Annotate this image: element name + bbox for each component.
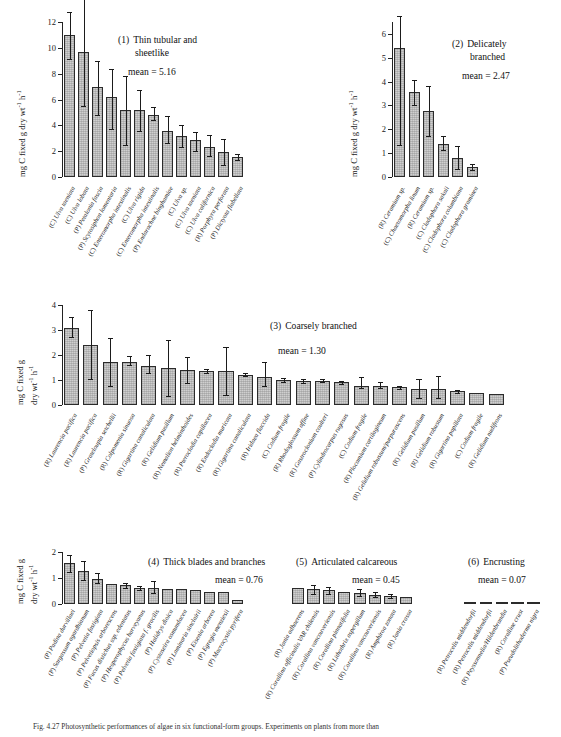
error-bar [154,581,155,593]
panel-title: (2)Delicately [452,38,507,49]
y-axis-tick [58,355,62,356]
species-label: (R) Colpomenia sinuosa [98,412,136,471]
y-axis-title: mg C fixed g dry wt-1 h-1 [14,90,27,177]
error-bar [196,132,197,151]
error-bar-cap [137,90,142,91]
y-axis-tick-label: 6 [34,96,56,105]
error-bar-cap [243,376,248,377]
bar [338,592,350,604]
error-bar-cap [455,146,460,147]
error-bar-cap [301,383,306,384]
y-axis-line [62,22,63,177]
y-axis-tick-label: 2 [34,351,56,360]
error-bar-cap [426,136,431,137]
error-bar-cap [378,382,383,383]
error-bar-cap [95,583,100,584]
panel-number: (2) [452,38,463,49]
error-bar [361,377,362,388]
error-bar-cap [179,125,184,126]
error-bar-cap [193,151,198,152]
error-bar-cap [95,573,100,574]
panel-title-text: Thin tubular and [133,34,197,45]
error-bar-cap [69,317,74,318]
error-bar-cap [108,338,113,339]
y-axis-tick-label: 4 [34,301,56,310]
panel-title-text: Delicately [467,38,506,49]
bar [106,584,117,604]
error-bar [110,338,111,386]
figure-caption: Fig. 4.27 Photosynthetic performances of… [33,722,533,734]
y-axis-tick [388,153,392,154]
bar [400,597,412,604]
error-bar-cap [95,115,100,116]
error-bar-cap [470,164,475,165]
panel-title-text: Coarsely branched [285,320,357,331]
error-bar-cap [235,154,240,155]
error-bar [149,355,150,373]
error-bar [443,136,444,150]
y-axis-tick [388,177,392,178]
panel-number: (6) [468,556,479,567]
error-bar-cap [127,365,132,366]
error-bar-cap [204,369,209,370]
error-bar-cap [235,160,240,161]
error-bar [98,61,99,115]
error-bar-cap [320,382,325,383]
figure-photosynthetic-performance: 024681012mg C fixed g dry wt-1 h-1(1)Thi… [0,0,561,737]
panel-number: (3) [270,320,281,331]
error-bar-cap [412,105,417,106]
panel-title: (4)Thick blades and branches [148,556,265,567]
error-bar-cap [339,381,344,382]
error-bar-cap [67,572,72,573]
y-axis-tick [388,129,392,130]
panel-mean-label: mean = 2.47 [462,70,510,81]
error-bar [400,16,401,145]
y-axis-tick-label: 12 [34,18,56,27]
panel-number: (5) [296,556,307,567]
error-bar [414,80,415,105]
error-bar-cap [185,383,190,384]
error-bar [168,116,169,143]
error-bar-cap [67,59,72,60]
error-bar-cap [193,132,198,133]
error-bar-cap [165,143,170,144]
error-bar [84,561,85,580]
error-bar-cap [441,150,446,151]
error-bar [429,86,430,136]
error-bar-cap [455,390,460,391]
error-bar [168,340,169,397]
bar [511,602,523,604]
bar [480,602,492,604]
error-bar [91,310,92,379]
y-axis-tick-label: 1 [364,149,386,158]
error-bar [140,90,141,131]
error-bar-cap [243,373,248,374]
y-axis-tick-label: 10 [34,44,56,53]
error-bar-cap [455,169,460,170]
y-axis-tick [388,34,392,35]
error-bar-cap [436,376,441,377]
bar [292,588,304,604]
error-bar-cap [123,588,128,589]
error-bar-cap [436,398,441,399]
error-bar [84,0,85,106]
y-axis-tick-label: 0 [34,173,56,182]
bar [464,602,476,604]
bar [199,371,214,406]
error-bar-cap [146,355,151,356]
error-bar-cap [223,347,228,348]
y-axis-tick [58,151,62,152]
y-axis-line [62,305,63,405]
error-bar-cap [412,80,417,81]
error-bar-cap [88,379,93,380]
panel-mean-label: mean = 5.16 [128,66,176,77]
error-bar [130,356,131,365]
error-bar [210,135,211,156]
y-axis-line [392,22,393,177]
error-bar-cap [207,135,212,136]
error-bar-cap [397,389,402,390]
error-bar-cap [137,590,142,591]
error-bar [226,347,227,395]
y-axis-tick [58,177,62,178]
panel-title-line2: branched [470,51,505,62]
